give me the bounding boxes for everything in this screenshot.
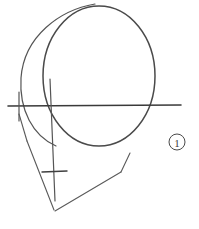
sketch-page: 1 — [0, 0, 199, 229]
mouth-tick — [42, 171, 67, 172]
paper-background — [0, 0, 199, 229]
eye-line — [8, 105, 181, 106]
head-construction-drawing: 1 — [0, 0, 199, 229]
step-marker-label: 1 — [174, 137, 180, 149]
